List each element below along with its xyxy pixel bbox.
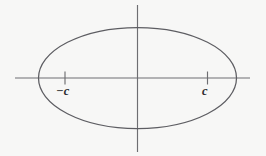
figure-canvas	[0, 0, 266, 156]
ellipse-foci-figure: −c c	[0, 0, 266, 156]
right-focus-label: c	[202, 85, 208, 98]
left-focus-label: −c	[56, 85, 69, 98]
